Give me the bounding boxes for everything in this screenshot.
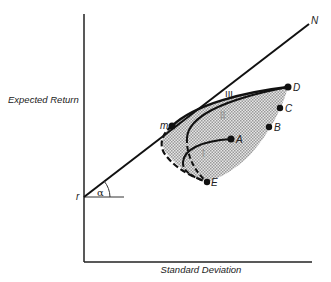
label-e: E: [211, 177, 218, 188]
label-curve-iii: III: [225, 88, 233, 99]
point-a: [228, 136, 235, 143]
point-c: [277, 105, 283, 111]
diagram-canvas: Expected Return Standard Deviation r N α…: [0, 0, 331, 282]
label-curve-i: I: [202, 147, 205, 158]
point-b: [266, 124, 272, 130]
label-a: A: [235, 134, 243, 145]
label-r: r: [76, 191, 80, 202]
label-alpha: α: [97, 187, 104, 198]
label-d: D: [293, 82, 300, 93]
angle-arc: [104, 181, 110, 197]
point-m: [169, 123, 176, 130]
point-d: [285, 84, 292, 91]
label-c: C: [285, 103, 293, 114]
x-axis-label: Standard Deviation: [161, 264, 242, 275]
label-curve-ii: II: [220, 109, 225, 120]
label-m: m: [160, 120, 168, 131]
label-n: N: [311, 15, 319, 26]
feasible-region: [162, 87, 288, 182]
y-axis-label: Expected Return: [8, 94, 79, 105]
point-e: [204, 179, 210, 185]
label-b: B: [274, 122, 281, 133]
